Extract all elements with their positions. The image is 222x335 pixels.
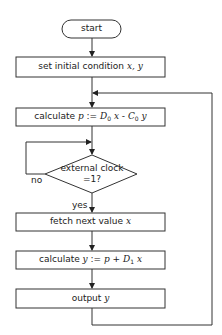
init-label-vars: x, y <box>127 61 143 71</box>
init-label-text: set initial condition <box>38 61 127 71</box>
fetch-label: fetch next value x <box>16 216 165 227</box>
calc-y-prefix: calculate <box>39 254 83 264</box>
output-prefix: output <box>72 293 105 303</box>
var-c: C <box>128 111 135 121</box>
yes-label: yes <box>72 200 88 211</box>
fetch-prefix: fetch next value <box>50 216 126 226</box>
var-y: y <box>139 111 147 121</box>
output-label: output y <box>16 293 165 304</box>
decision-label-line2: =1? <box>47 174 137 185</box>
calc-p-label: calculate p := D0 x - C0 y <box>16 111 165 124</box>
calc-y-label: calculate y := p + D1 x <box>16 254 165 267</box>
minus-op: - <box>119 111 128 121</box>
assign-op: := <box>84 111 100 121</box>
start-label: start <box>62 23 121 34</box>
decision-label-line1: external clock <box>47 163 137 174</box>
init-label: set initial condition x, y <box>16 61 165 72</box>
var-x: x <box>134 254 142 264</box>
var-y: y <box>104 293 109 303</box>
no-label: no <box>31 175 42 186</box>
calc-p-prefix: calculate <box>34 111 78 121</box>
assign-op: := <box>88 254 104 264</box>
plus-op: + <box>110 254 123 264</box>
var-x: x <box>126 216 131 226</box>
var-x: x <box>111 111 119 121</box>
